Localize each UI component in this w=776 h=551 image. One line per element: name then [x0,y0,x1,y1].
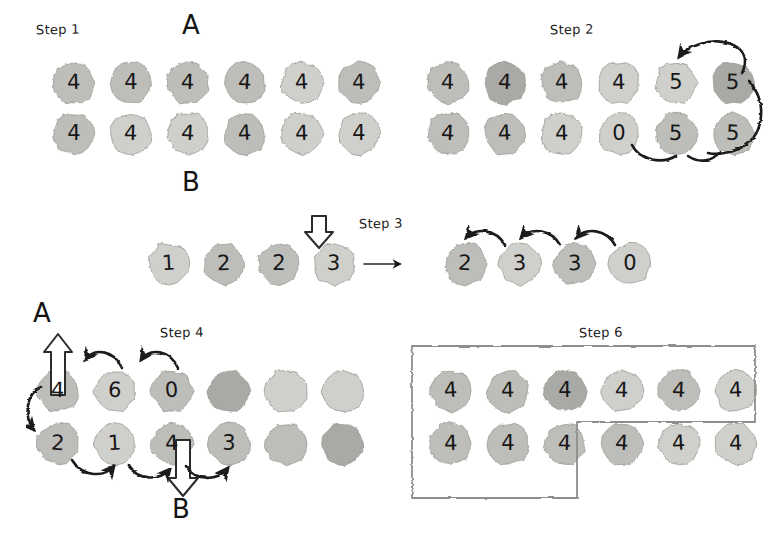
step3-after-cell-2[interactable]: 3 [552,241,598,287]
blob-value: 2 [458,252,473,274]
step1-row-a-cell-4[interactable]: 4 [279,60,325,106]
blob-value: 3 [513,252,528,274]
step2-row-a-cell-4[interactable]: 5 [653,60,699,106]
blob-value: 4 [612,71,626,92]
blob-value: 4 [165,432,179,453]
blob-value: 4 [352,71,366,92]
step6-row-a-cell-3[interactable]: 4 [599,368,645,414]
step6-row-b-cell-5[interactable]: 4 [713,421,759,467]
blob-value: 4 [615,379,629,400]
blob-value: 1 [108,432,123,454]
step4-row-b-cell-1[interactable]: 1 [92,421,138,467]
step3-after-cell-0[interactable]: 2 [442,241,488,287]
step3-after-cell-1[interactable]: 3 [497,241,543,287]
step4-row-b-cell-4[interactable] [263,421,309,467]
blob-value: 5 [669,72,682,93]
step6-row-b-cell-4[interactable]: 4 [656,421,702,467]
step2-row-a-cell-5[interactable]: 5 [710,60,756,106]
step2-row-b-cell-0[interactable]: 4 [425,111,471,157]
blob-shape [263,368,309,414]
blob-value: 4 [238,71,253,93]
blob-value: 4 [615,432,630,454]
step2-row-a-cell-2[interactable]: 4 [539,60,585,106]
step1-row-b-cell-1[interactable]: 4 [108,111,154,157]
step6-row-a-cell-4[interactable]: 4 [656,368,702,414]
step1-row-b-cell-0[interactable]: 4 [51,111,97,157]
step1-row-a-cell-5[interactable]: 4 [336,60,382,106]
blob-value: 4 [444,379,459,401]
blob-shape [263,421,309,467]
step1-row-a-cell-3[interactable]: 4 [222,60,268,106]
step4-row-a-cell-3[interactable] [206,368,252,414]
step4-row-a-cell-0[interactable]: 4 [35,368,81,414]
step1-row-a-cell-1[interactable]: 4 [108,60,154,106]
blob-value: 4 [51,379,65,400]
step4-row-a-cell-1[interactable]: 6 [92,368,138,414]
blob-value: 5 [669,122,683,143]
blob-value: 4 [672,432,687,454]
step6-row-a-cell-5[interactable]: 4 [713,368,759,414]
step4-row-b-cell-3[interactable]: 3 [206,421,252,467]
blob-value: 4 [729,432,743,453]
step1-row-a-cell-0[interactable]: 4 [51,60,97,106]
step3-before-cell-3[interactable]: 3 [311,241,357,287]
step2-row-a-cell-3[interactable]: 4 [596,60,642,106]
blob-value: 4 [555,122,569,143]
step4-row-b-cell-0[interactable]: 2 [35,421,81,467]
step6-row-a-cell-0[interactable]: 4 [428,368,474,414]
blob-value: 0 [612,123,625,144]
blob-value: 4 [124,72,137,93]
blob-value: 4 [498,122,513,144]
blob-value: 4 [558,380,571,401]
step4-row-b-cell-2[interactable]: 4 [149,421,195,467]
blob-value: 4 [181,122,196,144]
step1-row-b-cell-3[interactable]: 4 [222,111,268,157]
blob-value: 5 [726,71,740,92]
blob-layer: 4444444444444444554440551223233046021434… [0,0,776,551]
blob-value: 4 [295,71,310,93]
step2-row-b-cell-5[interactable]: 5 [710,111,756,157]
blob-value: 4 [67,123,80,144]
step1-row-b-cell-5[interactable]: 4 [336,111,382,157]
step6-row-b-cell-1[interactable]: 4 [485,421,531,467]
step3-before-cell-1[interactable]: 2 [201,241,247,287]
step1-row-a-cell-2[interactable]: 4 [165,60,211,106]
blob-value: 3 [568,252,582,273]
step3-after-cell-3[interactable]: 0 [607,241,653,287]
step2-row-b-cell-3[interactable]: 0 [596,111,642,157]
step2-row-b-cell-1[interactable]: 4 [482,111,528,157]
step1-row-b-cell-2[interactable]: 4 [165,111,211,157]
blob-value: 4 [444,432,458,453]
step6-row-b-cell-3[interactable]: 4 [599,421,645,467]
diagram-canvas: Step 1 Step 2 Step 3 Step 4 Step 6 A B A… [0,0,776,551]
step6-row-b-cell-0[interactable]: 4 [428,421,474,467]
blob-value: 4 [672,379,687,401]
step6-row-a-cell-2[interactable]: 4 [542,368,588,414]
blob-value: 4 [67,71,81,92]
step6-row-a-cell-1[interactable]: 4 [485,368,531,414]
step2-row-b-cell-2[interactable]: 4 [539,111,585,157]
blob-value: 4 [238,122,253,144]
step4-row-a-cell-2[interactable]: 0 [149,368,195,414]
step2-row-b-cell-4[interactable]: 5 [653,111,699,157]
step1-row-b-cell-4[interactable]: 4 [279,111,325,157]
step3-before-cell-0[interactable]: 1 [146,241,192,287]
blob-value: 2 [51,432,66,454]
blob-shape [320,421,366,467]
step4-row-a-cell-5[interactable] [320,368,366,414]
blob-value: 2 [272,253,285,274]
step2-row-a-cell-0[interactable]: 4 [425,60,471,106]
blob-value: 4 [441,71,455,92]
blob-value: 4 [558,432,572,453]
blob-shape [320,368,366,414]
blob-value: 5 [726,122,741,144]
step2-row-a-cell-1[interactable]: 4 [482,60,528,106]
step6-row-b-cell-2[interactable]: 4 [542,421,588,467]
blob-value: 4 [501,433,514,454]
blob-value: 1 [162,252,177,274]
step4-row-a-cell-4[interactable] [263,368,309,414]
step4-row-b-cell-5[interactable] [320,421,366,467]
blob-shape [206,368,252,414]
step3-before-cell-2[interactable]: 2 [256,241,302,287]
blob-value: 4 [352,123,365,144]
